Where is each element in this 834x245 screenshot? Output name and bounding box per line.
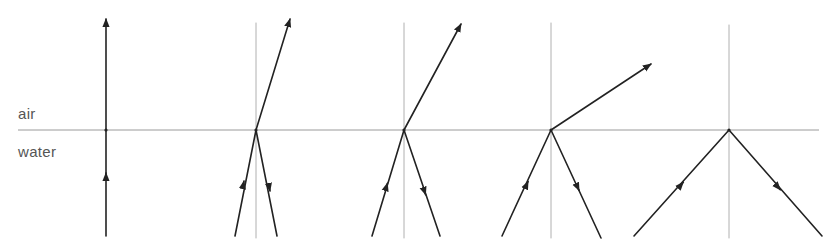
- incident-arrow-icon: [243, 181, 244, 188]
- incident-ray: [235, 130, 256, 236]
- incident-arrow-icon: [385, 183, 387, 190]
- reflected-arrow-icon: [269, 184, 270, 191]
- reflected-arrow-icon: [576, 184, 579, 190]
- panel-near-critical-angle: [502, 64, 651, 238]
- refracted-ray: [256, 19, 290, 130]
- incidence-point: [402, 128, 405, 131]
- incidence-point: [727, 128, 730, 131]
- light-rays: [104, 19, 822, 238]
- panel-small-angle: [235, 19, 290, 236]
- incidence-point: [254, 128, 257, 131]
- reflected-ray: [729, 130, 822, 236]
- incident-ray: [634, 130, 729, 236]
- reflected-ray: [256, 130, 277, 236]
- reflected-arrow-icon: [423, 188, 425, 195]
- refraction-diagram: [0, 0, 834, 245]
- reflected-ray: [404, 130, 440, 236]
- incidence-point: [104, 128, 107, 131]
- refracted-ray: [551, 64, 651, 130]
- incidence-point: [549, 128, 552, 131]
- refracted-ray: [404, 24, 461, 130]
- air-label: air: [18, 106, 36, 121]
- panel-normal-incidence: [104, 19, 107, 236]
- water-label: water: [18, 144, 56, 159]
- panel-total-internal-reflection: [634, 128, 822, 236]
- incident-ray: [502, 130, 551, 236]
